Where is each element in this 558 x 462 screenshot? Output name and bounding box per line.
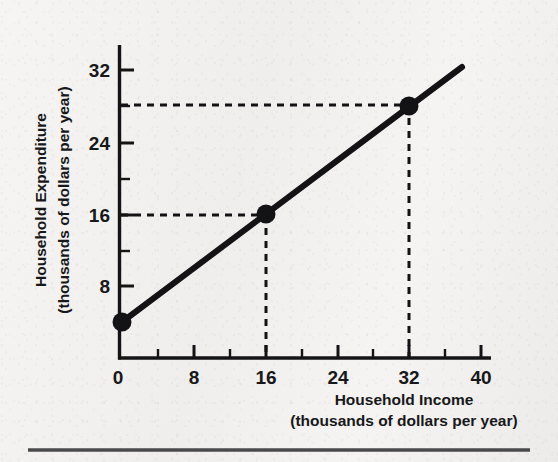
x-tick-label-16: 16 bbox=[255, 367, 276, 388]
y-axis-title-sub: (thousands of dollars per year) bbox=[55, 86, 72, 313]
x-tick-label-0: 0 bbox=[113, 367, 124, 388]
y-tick-label-16: 16 bbox=[89, 205, 110, 226]
data-point-a[interactable] bbox=[257, 205, 276, 224]
data-point-b[interactable] bbox=[400, 97, 419, 116]
x-tick-label-8: 8 bbox=[189, 367, 200, 388]
y-tick-label-24: 24 bbox=[89, 133, 111, 154]
x-axis-title-sub: (thousands of dollars per year) bbox=[290, 412, 517, 429]
x-axis bbox=[118, 345, 491, 358]
x-tick-label-24: 24 bbox=[327, 367, 349, 388]
x-tick-label-40: 40 bbox=[470, 367, 491, 388]
chart-figure: 32 24 16 8 0 8 16 24 32 40 bbox=[0, 0, 558, 462]
x-tick-label-32: 32 bbox=[398, 367, 419, 388]
x-tick-labels: 0 8 16 24 32 40 bbox=[113, 367, 492, 388]
chart-canvas: 32 24 16 8 0 8 16 24 32 40 bbox=[0, 0, 558, 462]
data-point-intercept[interactable] bbox=[113, 313, 132, 332]
y-tick-label-32: 32 bbox=[89, 60, 110, 81]
x-axis-title: Household Income (thousands of dollars p… bbox=[290, 391, 517, 429]
y-axis-title: Household Expenditure (thousands of doll… bbox=[32, 86, 72, 313]
y-axis-title-main: Household Expenditure bbox=[32, 113, 49, 287]
y-tick-labels: 32 24 16 8 bbox=[89, 60, 111, 297]
x-axis-title-main: Household Income bbox=[335, 391, 474, 408]
y-tick-label-8: 8 bbox=[99, 276, 110, 297]
